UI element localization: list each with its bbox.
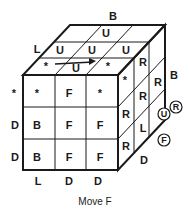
- front-cell-0-2: *: [98, 87, 103, 99]
- front-cell-2-0: B: [33, 151, 41, 163]
- right-cell-2-1: L: [140, 122, 147, 134]
- label-bottom-col3: D: [94, 175, 102, 187]
- top-cell-2-2: *: [106, 60, 111, 72]
- top-cell-2-1: U: [72, 62, 80, 74]
- front-cell-1-1: F: [66, 119, 73, 131]
- right-cell-0-1: R: [139, 56, 147, 68]
- circled-label-r: R: [173, 102, 180, 112]
- right-cell-2-0: R: [122, 140, 130, 152]
- right-cell-1-0: R: [122, 108, 130, 120]
- label-left-row2: D: [11, 119, 19, 131]
- top-cell-1-0: U: [56, 44, 64, 56]
- top-cell-0-1: U: [102, 27, 110, 39]
- top-cell-2-0: *: [44, 60, 49, 72]
- label-back-top: B: [109, 10, 117, 22]
- front-cell-2-2: F: [97, 151, 104, 163]
- caption: Move F: [78, 196, 111, 207]
- label-left-top: L: [34, 43, 41, 55]
- label-bottom-col2: D: [65, 175, 73, 187]
- front-cell-0-1: F: [66, 87, 73, 99]
- front-cell-1-2: F: [97, 119, 104, 131]
- label-bottom-col1: L: [35, 175, 42, 187]
- circled-label-f: F: [161, 135, 167, 145]
- front-face: * F * B F F B F F: [23, 75, 118, 170]
- right-cell-0-0: *: [123, 74, 128, 86]
- top-cell-1-2: U: [122, 44, 130, 56]
- label-left-row3: D: [11, 151, 19, 163]
- front-cell-1-0: B: [33, 119, 41, 131]
- front-cell-2-1: F: [66, 151, 73, 163]
- front-cell-0-0: *: [35, 87, 40, 99]
- label-right-bottom: D: [140, 154, 148, 166]
- right-cell-1-2: R: [154, 76, 162, 88]
- circled-label-u: U: [161, 109, 168, 119]
- label-right-back: B: [170, 69, 178, 81]
- right-cell-1-1: R: [139, 90, 147, 102]
- label-left-row1: *: [12, 87, 17, 99]
- top-cell-1-1: U: [88, 44, 96, 56]
- rubiks-cube-diagram: U U U U * U * * R R R R R L * F * B: [0, 0, 189, 212]
